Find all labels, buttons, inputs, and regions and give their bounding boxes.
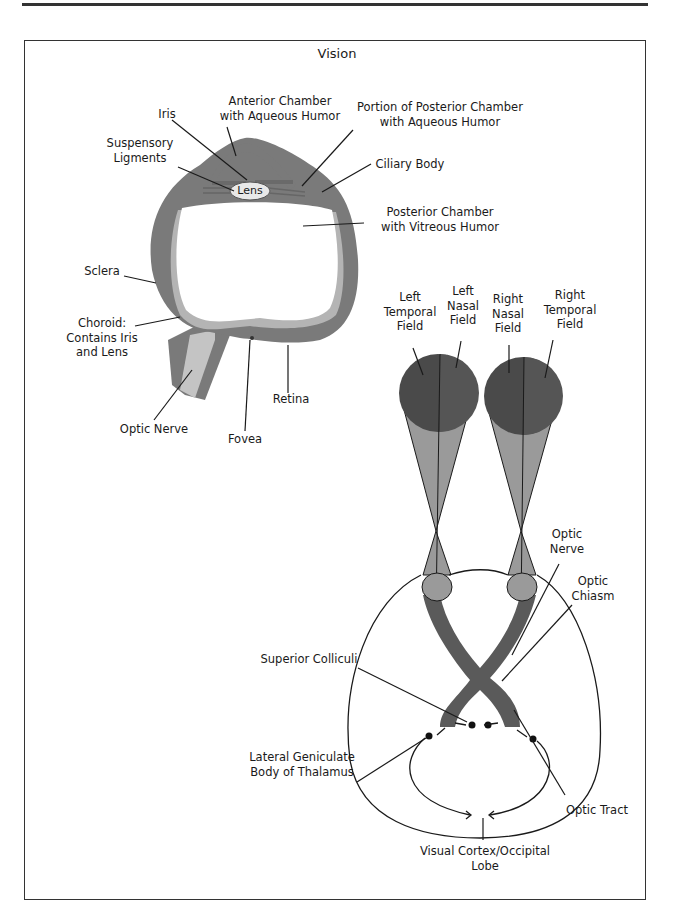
- label-line: Right: [538, 288, 602, 303]
- label-line: Field: [538, 317, 602, 332]
- label-sclera: Sclera: [80, 264, 124, 279]
- label-ciliary-body: Ciliary Body: [370, 157, 450, 172]
- label-line: Lobe: [410, 859, 560, 874]
- label-retina: Retina: [268, 392, 314, 407]
- label-posterior-portion: Portion of Posterior Chamber with Aqueou…: [355, 100, 525, 129]
- label-line: Right: [486, 292, 530, 307]
- right-eyeball: [507, 573, 537, 601]
- label-optic-nerve-pathway: Optic Nerve: [545, 527, 589, 556]
- left-nasal-half: [440, 354, 479, 432]
- label-line: Nasal: [441, 299, 485, 314]
- label-optic-chiasm: Optic Chiasm: [568, 574, 618, 603]
- eye-cross-section: [124, 120, 371, 431]
- label-superior-colliculi: Superior Colliculi: [254, 652, 364, 667]
- label-left-nasal-field: Left Nasal Field: [441, 284, 485, 328]
- head-top-arc: [449, 570, 508, 575]
- label-posterior-chamber: Posterior Chamber with Vitreous Humor: [375, 205, 505, 234]
- visual-pathway: [348, 340, 600, 840]
- fovea-pit: [250, 336, 254, 340]
- label-choroid: Choroid: Contains Iris and Lens: [60, 316, 144, 360]
- label-line: and Lens: [60, 345, 144, 360]
- label-right-nasal-field: Right Nasal Field: [486, 292, 530, 336]
- label-lgn: Lateral Geniculate Body of Thalamus: [246, 750, 358, 779]
- label-right-temporal-field: Right Temporal Field: [538, 288, 602, 332]
- label-line: Field: [441, 313, 485, 328]
- label-line: Suspensory: [100, 136, 180, 151]
- superior-colliculus-left: [469, 722, 476, 729]
- label-line: Temporal: [538, 303, 602, 318]
- label-suspensory: Suspensory Ligments: [100, 136, 180, 165]
- label-anterior-chamber: Anterior Chamber with Aqueous Humor: [205, 94, 355, 123]
- label-line: Contains Iris: [60, 331, 144, 346]
- label-line: Lateral Geniculate: [246, 750, 358, 765]
- label-line: Ligments: [100, 151, 180, 166]
- vitreous-chamber: [176, 202, 337, 321]
- label-line: Anterior Chamber: [205, 94, 355, 109]
- label-left-temporal-field: Left Temporal Field: [380, 290, 440, 334]
- left-eyeball: [422, 573, 452, 601]
- label-line: Optic: [568, 574, 618, 589]
- label-visual-cortex: Visual Cortex/Occipital Lobe: [410, 844, 560, 873]
- label-line: Portion of Posterior Chamber: [355, 100, 525, 115]
- label-iris: Iris: [152, 107, 182, 122]
- label-optic-nerve-eye: Optic Nerve: [114, 422, 194, 437]
- label-line: with Aqueous Humor: [205, 109, 355, 124]
- label-optic-tract: Optic Tract: [562, 803, 632, 818]
- label-line: Choroid:: [60, 316, 144, 331]
- label-line: Chiasm: [568, 589, 618, 604]
- label-line: Nerve: [545, 542, 589, 557]
- right-temporal-half: [524, 357, 563, 435]
- label-line: Field: [380, 319, 440, 334]
- label-lens: Lens: [232, 184, 268, 199]
- lgn-left: [426, 733, 433, 740]
- label-line: Temporal: [380, 305, 440, 320]
- label-line: Posterior Chamber: [375, 205, 505, 220]
- label-line: Optic: [545, 527, 589, 542]
- label-line: with Vitreous Humor: [375, 220, 505, 235]
- label-line: Nasal: [486, 307, 530, 322]
- label-fovea: Fovea: [222, 432, 268, 447]
- label-line: Left: [380, 290, 440, 305]
- label-line: Body of Thalamus: [246, 765, 358, 780]
- label-line: Left: [441, 284, 485, 299]
- optic-nerve-chiasm: [423, 595, 536, 727]
- label-line: Field: [486, 321, 530, 336]
- label-line: with Aqueous Humor: [355, 115, 525, 130]
- label-line: Visual Cortex/Occipital: [410, 844, 560, 859]
